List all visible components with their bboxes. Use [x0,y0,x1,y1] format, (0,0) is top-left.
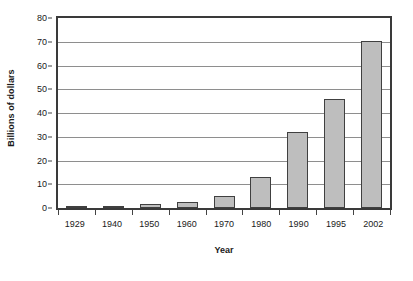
bar[interactable] [66,206,87,208]
x-axis-tick-label: 1970 [205,218,242,232]
x-axis-tick-label: 1960 [168,218,205,232]
bar[interactable] [140,204,161,208]
x-axis-tick-mark [353,210,354,215]
bar[interactable] [287,132,308,208]
bar[interactable] [103,206,124,208]
x-axis-tick-label: 1940 [93,218,130,232]
x-axis-tick-label: 1950 [131,218,168,232]
y-axis-tick-mark [48,89,52,90]
y-axis-title: Billions of dollars [0,0,22,215]
bar-series [58,18,390,208]
x-axis-tick-mark [206,210,207,215]
bar-slot [353,18,390,208]
y-axis-tick-label: 0 [42,204,47,213]
y-axis-tick-label: 70 [37,37,47,46]
bar-slot [58,18,95,208]
bar-slot [169,18,206,208]
bar-slot [316,18,353,208]
y-axis-tick-mark [48,184,52,185]
bar[interactable] [214,196,235,208]
x-axis-tick-label: 2002 [355,218,392,232]
y-axis-tick-mark [48,18,52,19]
bar-slot [95,18,132,208]
x-axis-tick-marks [56,210,392,215]
plot-area [56,16,392,210]
x-axis-tick-label: 1990 [280,218,317,232]
y-axis-tick-label: 20 [37,156,47,165]
x-axis-tick-label: 1980 [243,218,280,232]
y-axis-tick-label: 80 [37,14,47,23]
y-axis-tick-mark [48,41,52,42]
x-axis-tick-label: 1995 [317,218,354,232]
y-axis-tick-label: 50 [37,85,47,94]
y-axis-tick-mark [48,208,52,209]
y-axis-tick-mark [48,65,52,66]
bar[interactable] [250,177,271,208]
x-axis-tick-mark [169,210,170,215]
x-axis-title: Year [56,245,392,255]
y-axis-tick-labels: 01020304050607080 [22,16,52,210]
x-axis-tick-mark [390,210,391,215]
y-axis-tick-mark [48,136,52,137]
bar-slot [279,18,316,208]
bar[interactable] [361,41,382,208]
y-axis-tick-label: 30 [37,132,47,141]
bar-slot [242,18,279,208]
x-axis-tick-mark [279,210,280,215]
bar[interactable] [177,202,198,208]
y-axis-tick-label: 10 [37,180,47,189]
bar-chart: Billions of dollars 01020304050607080 19… [0,0,413,281]
x-axis-tick-mark [316,210,317,215]
x-axis-tick-labels: 192919401950196019701980199019952002 [56,218,392,232]
bar-slot [132,18,169,208]
x-axis-tick-mark [132,210,133,215]
plot-inner [58,18,390,208]
x-axis-tick-mark [242,210,243,215]
x-axis-tick-label: 1929 [56,218,93,232]
y-axis-tick-mark [48,113,52,114]
y-axis-tick-mark [48,160,52,161]
bar-slot [206,18,243,208]
x-axis-tick-mark [95,210,96,215]
bar[interactable] [324,99,345,208]
x-axis-tick-mark [58,210,59,215]
y-axis-title-text: Billions of dollars [6,69,16,146]
y-axis-tick-label: 60 [37,61,47,70]
y-axis-tick-label: 40 [37,109,47,118]
